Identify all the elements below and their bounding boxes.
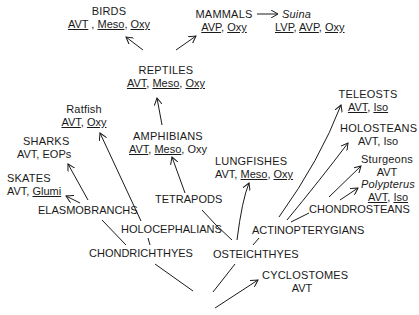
- node-tetrapods: TETRAPODS: [155, 193, 222, 206]
- node-name: MAMMALS: [191, 8, 257, 21]
- node-name: CYCLOSTOMES: [262, 269, 342, 282]
- node-traits: AVT, Iso: [334, 101, 402, 114]
- node-traits: AVT: [262, 282, 342, 295]
- node-skates: SKATES AVT, Glumi: [7, 172, 67, 198]
- node-name: HOLOSTEANS: [340, 122, 416, 135]
- node-traits: AVT, Glumi: [7, 185, 67, 198]
- node-sturgeons: Sturgeons AVT: [358, 153, 416, 179]
- node-name: Sturgeons: [358, 153, 416, 166]
- node-name: SKATES: [7, 172, 67, 185]
- node-traits: AVT, Iso: [340, 135, 416, 148]
- node-lungfishes: LUNGFISHES AVT, Meso, Oxy: [215, 155, 299, 181]
- node-traits: AVT, Oxy: [56, 116, 112, 129]
- node-traits: AVT, EOPs: [17, 148, 77, 161]
- node-sharks: SHARKS AVT, EOPs: [17, 135, 77, 161]
- node-traits: LVP, AVP, Oxy: [275, 21, 355, 34]
- node-reptiles: REPTILES AVT, Meso, Oxy: [126, 64, 206, 90]
- node-traits: AVT, Meso, Oxy: [126, 77, 206, 90]
- node-actinopterygians: ACTINOPTERYGIANS: [252, 224, 364, 237]
- node-birds: BIRDS AVT , Meso, Oxy: [64, 5, 154, 31]
- node-name: REPTILES: [126, 64, 206, 77]
- node-holocephalians: HOLOCEPHALIANS: [121, 223, 222, 236]
- node-polypterus: Polypterus AVT, Iso: [358, 178, 418, 204]
- node-name: LUNGFISHES: [215, 155, 299, 168]
- node-name: SHARKS: [17, 135, 77, 148]
- node-name: Polypterus: [358, 178, 418, 191]
- node-mammals: MAMMALS AVP, Oxy: [191, 8, 257, 34]
- node-suina: Suina LVP, AVP, Oxy: [275, 8, 355, 34]
- node-name: AMPHIBIANS: [128, 130, 208, 143]
- node-chondrichthyes: CHONDRICHTHYES: [89, 247, 193, 260]
- node-chondrosteans: CHONDROSTEANS: [309, 203, 410, 216]
- node-traits: AVP, Oxy: [191, 21, 257, 34]
- node-cyclostomes: CYCLOSTOMES AVT: [262, 269, 342, 295]
- node-teleosts: TELEOSTS AVT, Iso: [334, 88, 402, 114]
- node-traits: AVT , Meso, Oxy: [64, 18, 154, 31]
- node-name: TELEOSTS: [334, 88, 402, 101]
- node-ratfish: Ratfish AVT, Oxy: [56, 103, 112, 129]
- node-name: Suina: [275, 8, 355, 21]
- node-traits: AVT, Meso, Oxy: [128, 143, 208, 156]
- node-osteichthyes: OSTEICHTHYES: [213, 248, 299, 261]
- node-name: Ratfish: [56, 103, 112, 116]
- node-amphibians: AMPHIBIANS AVT, Meso, Oxy: [128, 130, 208, 156]
- node-name: BIRDS: [64, 5, 154, 18]
- node-traits: AVT, Meso, Oxy: [215, 168, 299, 181]
- node-holosteans: HOLOSTEANS AVT, Iso: [340, 122, 416, 148]
- node-elasmobranchs: ELASMOBRANCHS: [38, 204, 138, 217]
